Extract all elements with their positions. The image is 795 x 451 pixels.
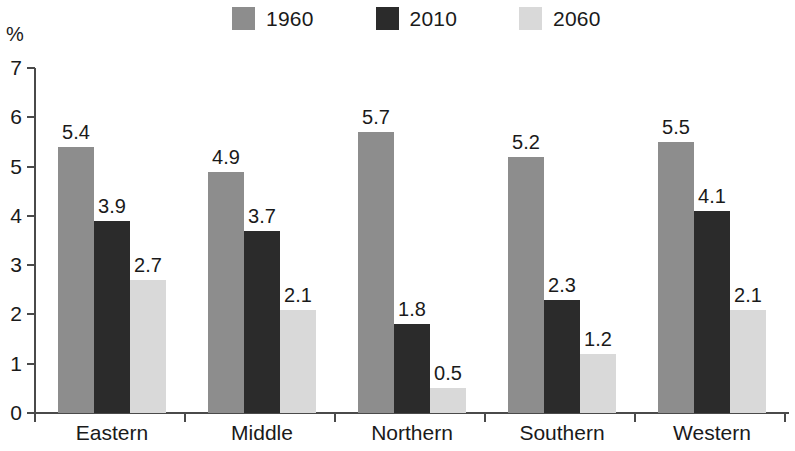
x-axis-tick <box>634 414 636 422</box>
bar-western-1960[interactable] <box>658 142 694 413</box>
x-axis-tick <box>184 414 186 422</box>
x-axis-tick <box>784 414 786 422</box>
bar-middle-2010[interactable] <box>244 231 280 413</box>
bar-value-label: 2.3 <box>532 275 592 295</box>
bar-eastern-2010[interactable] <box>94 221 130 413</box>
bar-value-label: 3.9 <box>82 196 142 216</box>
y-axis-tick-value: 5 <box>0 156 22 177</box>
y-axis-tick-value: 6 <box>0 106 22 127</box>
x-axis-label-middle: Middle <box>192 421 332 445</box>
y-axis-tick <box>27 264 35 266</box>
y-axis-tick <box>27 313 35 315</box>
bar-value-label: 2.1 <box>268 285 328 305</box>
y-axis-tick-value: 1 <box>0 353 22 374</box>
bar-value-label: 4.1 <box>682 186 742 206</box>
y-axis-tick-value: 7 <box>0 57 22 78</box>
bar-southern-2060[interactable] <box>580 354 616 413</box>
bar-western-2060[interactable] <box>730 310 766 414</box>
x-axis-tick <box>484 414 486 422</box>
bar-middle-2060[interactable] <box>280 310 316 414</box>
y-axis-tick-label: 7 <box>0 57 22 78</box>
bar-northern-1960[interactable] <box>358 132 394 413</box>
y-axis-tick-value: 4 <box>0 205 22 226</box>
bar-value-label: 2.7 <box>118 255 178 275</box>
bar-value-label: 5.7 <box>346 107 406 127</box>
y-axis-tick-value: 3 <box>0 254 22 275</box>
bar-value-label: 5.4 <box>46 122 106 142</box>
x-axis-label-southern: Southern <box>492 421 632 445</box>
y-axis-tick <box>27 166 35 168</box>
x-axis-tick <box>34 414 36 422</box>
bar-chart: 196020102060 % 01234567 5.43.92.74.93.72… <box>0 0 795 451</box>
bar-southern-2010[interactable] <box>544 300 580 413</box>
y-axis-tick-label: 0 <box>0 402 22 423</box>
y-axis-tick <box>27 67 35 69</box>
bar-value-label: 2.1 <box>718 285 778 305</box>
x-axis-tick <box>334 414 336 422</box>
y-axis-tick-label: 5 <box>0 156 22 177</box>
bar-value-label: 4.9 <box>196 147 256 167</box>
bar-northern-2060[interactable] <box>430 388 466 413</box>
x-axis-label-western: Western <box>642 421 782 445</box>
y-axis-tick-label: 4 <box>0 205 22 226</box>
y-axis-tick <box>27 116 35 118</box>
bar-value-label: 3.7 <box>232 206 292 226</box>
bar-value-label: 1.2 <box>568 329 628 349</box>
bar-eastern-1960[interactable] <box>58 147 94 413</box>
y-axis-tick <box>27 215 35 217</box>
x-axis-label-northern: Northern <box>342 421 482 445</box>
y-axis-tick-value: 0 <box>0 402 22 423</box>
bar-western-2010[interactable] <box>694 211 730 413</box>
y-axis-tick-label: 3 <box>0 254 22 275</box>
x-axis-label-eastern: Eastern <box>42 421 182 445</box>
y-axis-tick <box>27 363 35 365</box>
y-axis-tick-label: 2 <box>0 303 22 324</box>
bar-value-label: 1.8 <box>382 299 442 319</box>
y-axis-tick-value: 2 <box>0 303 22 324</box>
y-axis-tick-label: 6 <box>0 106 22 127</box>
bar-value-label: 5.2 <box>496 132 556 152</box>
y-axis-tick-label: 1 <box>0 353 22 374</box>
bar-value-label: 5.5 <box>646 117 706 137</box>
plot-area: 01234567 5.43.92.74.93.72.15.71.80.55.22… <box>0 0 795 451</box>
bar-eastern-2060[interactable] <box>130 280 166 413</box>
bar-value-label: 0.5 <box>418 363 478 383</box>
